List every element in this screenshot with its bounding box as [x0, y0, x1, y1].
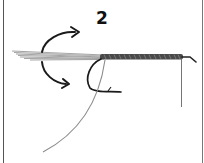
loose-strand: [43, 60, 105, 152]
wrapped-body: [100, 54, 183, 60]
rotation-arrow-up: [42, 32, 75, 52]
hook-eye: [182, 57, 196, 62]
hook-barb: [108, 87, 111, 91]
tail-fibers: [12, 51, 104, 60]
rotation-arrow-down: [42, 62, 66, 84]
diagram-canvas: 2: [0, 0, 204, 163]
step-number: 2: [96, 10, 108, 27]
